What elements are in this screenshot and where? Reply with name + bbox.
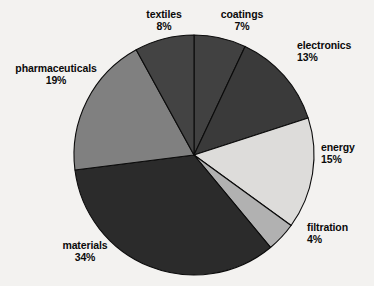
slice-label-materials-name: materials — [54, 239, 116, 251]
slice-label-pharmaceuticals: pharmaceuticals 19% — [6, 62, 106, 87]
slice-label-energy: energy 15% — [321, 141, 373, 166]
slice-label-coatings-percent: 7% — [209, 20, 275, 32]
slice-label-filtration: filtration 4% — [307, 221, 371, 246]
slice-label-electronics-name: electronics — [297, 39, 373, 51]
slice-label-electronics: electronics 13% — [297, 39, 373, 64]
slice-label-filtration-percent: 4% — [307, 233, 371, 245]
slice-label-materials: materials 34% — [54, 239, 116, 264]
slice-label-textiles-name: textiles — [131, 8, 197, 20]
slice-label-energy-name: energy — [321, 141, 373, 153]
slice-label-filtration-name: filtration — [307, 221, 371, 233]
slice-label-textiles: textiles 8% — [131, 8, 197, 33]
slice-label-coatings: coatings 7% — [209, 8, 275, 33]
slice-label-materials-percent: 34% — [54, 251, 116, 263]
slice-label-energy-percent: 15% — [321, 153, 373, 165]
slice-label-pharmaceuticals-name: pharmaceuticals — [6, 62, 106, 74]
slice-label-pharmaceuticals-percent: 19% — [6, 74, 106, 86]
slice-label-electronics-percent: 13% — [297, 51, 373, 63]
pie-chart-figure: textiles 8% coatings 7% electronics 13% … — [0, 0, 374, 286]
slice-label-textiles-percent: 8% — [131, 20, 197, 32]
slice-label-coatings-name: coatings — [209, 8, 275, 20]
